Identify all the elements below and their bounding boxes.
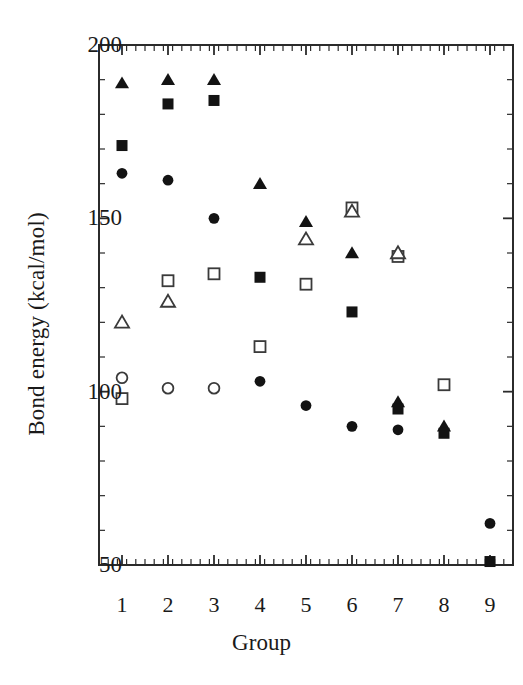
- data-point-filled-circle: [255, 376, 266, 387]
- data-point-filled-circle: [301, 400, 312, 411]
- data-point-filled-square: [209, 95, 220, 106]
- data-point-filled-triangle: [207, 73, 221, 85]
- data-point-filled-triangle: [299, 215, 313, 227]
- data-point-open-circle: [209, 383, 220, 394]
- data-point-open-circle: [163, 383, 174, 394]
- x-tick-label: 1: [110, 594, 134, 616]
- data-point-filled-square: [485, 556, 496, 567]
- y-tick-label: 200: [66, 33, 122, 56]
- data-point-open-triangle: [299, 232, 313, 244]
- data-point-filled-square: [255, 272, 266, 283]
- x-tick-label: 3: [202, 594, 226, 616]
- data-point-filled-triangle: [161, 73, 175, 85]
- data-point-open-square: [163, 275, 174, 286]
- x-tick-label: 8: [432, 594, 456, 616]
- data-point-filled-circle: [393, 424, 404, 435]
- data-point-filled-triangle: [253, 177, 267, 189]
- data-point-filled-square: [439, 428, 450, 439]
- data-point-open-triangle: [161, 295, 175, 307]
- y-tick-label: 50: [66, 553, 122, 576]
- x-tick-label: 2: [156, 594, 180, 616]
- data-point-filled-circle: [209, 213, 220, 224]
- data-point-open-square: [301, 279, 312, 290]
- data-point-open-square: [255, 341, 266, 352]
- data-point-filled-circle: [347, 421, 358, 432]
- x-tick-label: 4: [248, 594, 272, 616]
- data-point-filled-circle: [163, 175, 174, 186]
- data-markers: [115, 73, 496, 567]
- data-point-filled-triangle: [345, 246, 359, 258]
- y-tick-label: 150: [66, 206, 122, 229]
- data-point-open-square: [209, 268, 220, 279]
- data-point-filled-circle: [485, 518, 496, 529]
- data-point-filled-square: [163, 98, 174, 109]
- x-tick-label: 5: [294, 594, 318, 616]
- x-tick-label: 6: [340, 594, 364, 616]
- x-axis-tick-labels: 123456789: [0, 580, 523, 620]
- x-tick-label: 9: [478, 594, 502, 616]
- data-point-filled-square: [393, 404, 404, 415]
- x-tick-label: 7: [386, 594, 410, 616]
- data-point-open-square: [439, 379, 450, 390]
- data-point-filled-square: [347, 306, 358, 317]
- y-tick-label: 100: [66, 380, 122, 403]
- bond-energy-figure: Bond energy (kcal/mol) Group 20015010050…: [0, 0, 523, 685]
